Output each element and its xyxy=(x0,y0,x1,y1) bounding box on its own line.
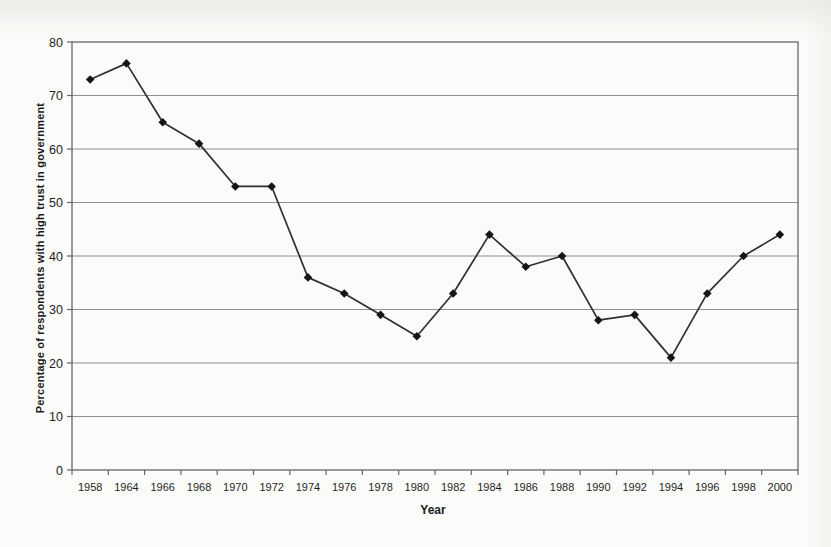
data-point-1990 xyxy=(594,316,603,325)
x-tick-label-2000: 2000 xyxy=(768,481,792,493)
y-tick-label-60: 60 xyxy=(49,143,63,157)
x-tick-label-1978: 1978 xyxy=(368,481,392,493)
x-tick-label-1990: 1990 xyxy=(586,481,610,493)
x-tick-label-1970: 1970 xyxy=(223,481,247,493)
x-tick-label-1994: 1994 xyxy=(659,481,683,493)
y-tick-label-70: 70 xyxy=(49,89,63,103)
data-point-1978 xyxy=(376,311,385,320)
y-tick-label-10: 10 xyxy=(49,410,63,424)
y-tick-label-50: 50 xyxy=(49,196,63,210)
data-point-2000 xyxy=(776,230,785,239)
x-tick-label-1996: 1996 xyxy=(695,481,719,493)
scanned-chart-page: 0102030405060708019581964196619681970197… xyxy=(0,0,831,547)
x-tick-label-1964: 1964 xyxy=(114,481,138,493)
y-tick-label-40: 40 xyxy=(49,250,63,264)
x-tick-label-1976: 1976 xyxy=(332,481,356,493)
y-tick-label-0: 0 xyxy=(56,464,63,478)
data-point-1964 xyxy=(122,59,131,68)
x-tick-label-1968: 1968 xyxy=(187,481,211,493)
x-axis-title: Year xyxy=(420,503,445,517)
x-tick-label-1966: 1966 xyxy=(151,481,175,493)
x-tick-label-1988: 1988 xyxy=(550,481,574,493)
x-tick-label-1974: 1974 xyxy=(296,481,320,493)
x-tick-label-1980: 1980 xyxy=(405,481,429,493)
x-tick-label-1972: 1972 xyxy=(259,481,283,493)
y-tick-label-80: 80 xyxy=(49,36,63,50)
trend-line xyxy=(90,63,780,357)
x-tick-label-1982: 1982 xyxy=(441,481,465,493)
y-axis-title: Percentage of respondents with high trus… xyxy=(34,103,46,413)
data-point-1976 xyxy=(340,289,349,298)
data-point-1988 xyxy=(558,252,567,261)
data-point-1966 xyxy=(158,118,167,127)
x-tick-label-1992: 1992 xyxy=(622,481,646,493)
data-point-1972 xyxy=(267,182,276,191)
x-tick-label-1998: 1998 xyxy=(731,481,755,493)
x-tick-label-1986: 1986 xyxy=(514,481,538,493)
x-tick-label-1958: 1958 xyxy=(78,481,102,493)
data-point-1974 xyxy=(304,273,313,282)
x-tick-label-1984: 1984 xyxy=(477,481,501,493)
trust-in-government-line-chart: 0102030405060708019581964196619681970197… xyxy=(0,0,831,547)
y-tick-label-30: 30 xyxy=(49,303,63,317)
data-point-1958 xyxy=(86,75,95,84)
y-tick-label-20: 20 xyxy=(49,357,63,371)
